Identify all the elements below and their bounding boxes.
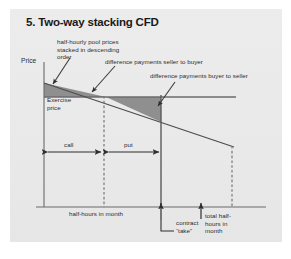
- slide-image: 5. Two-way stacking CFD Price half-hourl…: [0, 0, 291, 259]
- x-axis-label: half-hours in month: [69, 210, 123, 218]
- total-half-hours-label: total half- hours in month: [205, 212, 231, 235]
- contract-take-label: contract “take”: [176, 219, 198, 234]
- y-axis-label: Price: [21, 57, 36, 65]
- difference-payments-seller-to-buyer-label: difference payments seller to buyer: [105, 58, 203, 66]
- region-seller-to-buyer: [44, 83, 106, 97]
- slide-title: 5. Two-way stacking CFD: [26, 16, 159, 28]
- region-buyer-to-seller: [106, 97, 161, 122]
- call-span-label: call: [64, 141, 73, 149]
- cfd-payoff-diagram: [0, 0, 291, 259]
- leader-buyer-to-seller: [158, 82, 175, 106]
- leader-seller-to-buyer: [92, 66, 115, 92]
- difference-payments-buyer-to-seller-label: difference payments buyer to seller: [150, 72, 248, 80]
- pool-price-stack-line: [44, 83, 234, 147]
- contract-take-callout-elbow: [161, 220, 174, 231]
- put-span-label: put: [124, 141, 133, 149]
- leader-stacked-note: [53, 58, 70, 84]
- exercise-price-label: Exercise price: [47, 96, 71, 111]
